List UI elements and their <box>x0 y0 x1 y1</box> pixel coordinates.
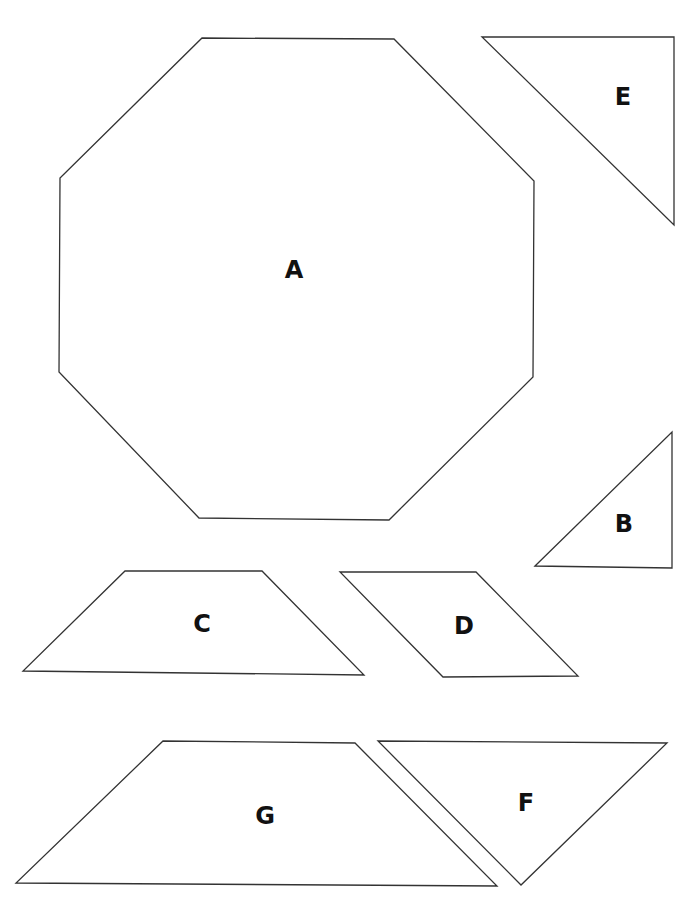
label-c: C <box>193 610 211 638</box>
label-b: B <box>615 510 633 538</box>
label-f: F <box>518 789 534 817</box>
shape-a: A <box>59 38 534 520</box>
label-d: D <box>454 612 474 640</box>
label-g: G <box>255 802 275 830</box>
label-a: A <box>285 256 304 284</box>
triangle-b <box>535 432 672 568</box>
label-e: E <box>615 83 631 111</box>
diagram-canvas: A E B C D G F <box>0 0 699 909</box>
shape-b: B <box>535 432 672 568</box>
shapes-diagram: A E B C D G F <box>0 0 699 909</box>
shape-c: C <box>23 571 364 675</box>
shape-d: D <box>340 572 578 677</box>
